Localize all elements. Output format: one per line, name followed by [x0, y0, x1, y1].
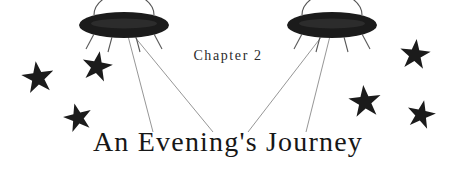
star-right-outer: [405, 97, 439, 129]
chapter-label: Chapter 2: [0, 48, 456, 64]
chapter-title: An Evening's Journey: [0, 126, 456, 158]
ufo-right: [287, 0, 377, 52]
star-left-outer: [20, 59, 56, 94]
chapter-header: Chapter 2 An Evening's Journey: [0, 0, 456, 170]
star-right-middle: [347, 83, 382, 117]
ufo-left: [79, 0, 169, 52]
